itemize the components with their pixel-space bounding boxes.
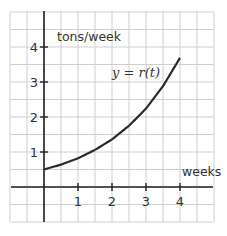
x-axis-label: weeks <box>182 164 221 179</box>
y-tick-label-1: 1 <box>30 145 38 160</box>
curve-label: y = r(t) <box>111 65 160 80</box>
x-tick-label-1: 1 <box>74 194 82 209</box>
y-tick-label-4: 4 <box>30 40 38 55</box>
chart-canvas: 1 2 3 4 1 2 3 4 tons/week weeks y = r(t) <box>0 0 227 236</box>
x-tick-label-2: 2 <box>108 194 116 209</box>
x-tick-label-3: 3 <box>142 194 150 209</box>
x-tick-label-4: 4 <box>176 194 184 209</box>
y-axis-label: tons/week <box>57 29 122 44</box>
y-tick-label-2: 2 <box>30 110 38 125</box>
y-tick-label-3: 3 <box>30 75 38 90</box>
